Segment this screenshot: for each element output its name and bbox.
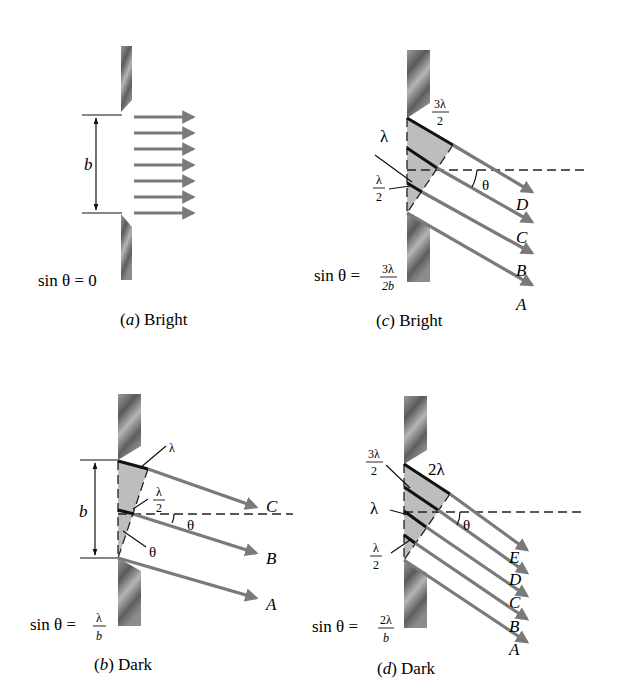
label-lambda: λ [169,441,175,455]
slit-width-label: b [79,502,88,521]
svg-text:λ: λ [373,541,379,555]
straight-rays [134,117,193,213]
svg-text:λ: λ [156,485,162,499]
svg-text:3λ: 3λ [368,447,380,461]
slit-width-label: b [84,155,93,174]
slit-upper-jaw [118,394,141,460]
label-lambda: λ [370,499,379,518]
panel-d: θ 2λ 3λ 2 λ λ 2 E D C B A sin θ = 2λ b (… [312,396,582,678]
svg-text:2: 2 [371,464,377,478]
slit-lower-jaw [404,560,427,628]
ray-label-c: C [266,497,278,516]
ray-label-e: E [508,548,520,567]
ray-label-a: A [508,640,520,659]
svg-text:2: 2 [156,501,162,515]
label-2lambda: 2λ [428,460,446,479]
label-lambda-2-num: λ [376,173,382,187]
slit-lower-jaw [118,558,141,626]
ray-label-a: A [265,595,277,614]
panel-c: θ 3λ 2 λ λ 2 D C B A sin θ = 3λ 2b (c) B… [314,50,585,330]
equation-b-lhs: sin θ = [30,615,76,634]
svg-text:λ: λ [96,611,102,625]
slit-lower-jaw [121,214,132,280]
ray-label-c: C [516,228,528,247]
svg-text:b: b [96,629,102,643]
equation-c-lhs: sin θ = [314,266,360,285]
ray-label-d: D [515,195,529,214]
slit-upper-jaw [404,396,427,464]
caption-a: (a) Bright [120,310,188,329]
svg-text:2b: 2b [382,279,394,293]
ray-label-b: B [516,261,527,280]
wedge-angle-label: θ [149,544,156,560]
slit-upper-jaw [407,50,430,118]
svg-text:2λ: 2λ [380,613,392,627]
ray-e [450,494,527,550]
ray-label-c: C [509,593,521,612]
ray-label-b: B [266,549,277,568]
label-lambda-2-den: 2 [376,190,382,204]
svg-text:3λ: 3λ [382,262,394,276]
ray-label-d: D [508,570,522,589]
equation-d-lhs: sin θ = [312,617,358,636]
caption-d: (d) Dark [377,659,436,678]
ray-label-b: B [509,617,520,636]
angle-label: θ [482,177,489,193]
angle-arc [472,170,477,187]
angle-label: θ [463,517,470,533]
caption-c: (c) Bright [376,311,443,330]
label-3lambda-2-num: 3λ [434,97,446,111]
angle-label: θ [187,517,194,533]
svg-text:b: b [383,631,389,645]
ray-label-a: A [515,295,527,314]
diffraction-figure: b sin θ = 0 (a) Bright [0,0,619,693]
caption-b: (b) Dark [94,655,153,674]
panel-a: b sin θ = 0 (a) Bright [38,46,193,329]
label-lambda: λ [380,127,389,146]
slit-upper-jaw [121,46,132,112]
ray-c [148,469,256,507]
panel-b: b θ θ λ λ 2 C B A sin θ = λ b (b) Dark [30,394,293,674]
label-3lambda-2-den: 2 [437,114,443,128]
equation-a: sin θ = 0 [38,271,97,290]
svg-text:2: 2 [373,558,379,572]
